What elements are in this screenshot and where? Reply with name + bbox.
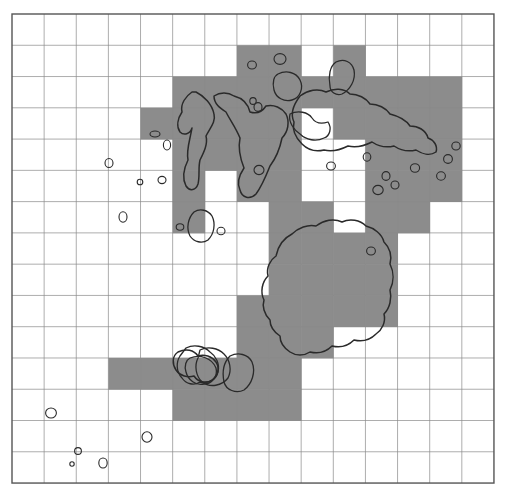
shaded-cell bbox=[333, 77, 366, 109]
shaded-cell bbox=[365, 295, 398, 327]
shaded-cell bbox=[173, 389, 206, 421]
shaded-cell bbox=[173, 77, 206, 109]
shaded-cell bbox=[398, 108, 431, 140]
figure-page bbox=[0, 0, 505, 495]
shaded-cell bbox=[173, 202, 206, 234]
shaded-cell bbox=[237, 327, 270, 359]
shaded-cell bbox=[108, 358, 141, 390]
shaded-cell bbox=[237, 77, 270, 109]
shaded-cell bbox=[333, 295, 366, 327]
shaded-cell bbox=[430, 108, 463, 140]
shaded-cell bbox=[430, 170, 463, 202]
shaded-cell bbox=[205, 139, 238, 171]
shaded-cell bbox=[269, 295, 302, 327]
shaded-cell bbox=[398, 77, 431, 109]
shaded-cell bbox=[269, 202, 302, 234]
shaded-cell bbox=[269, 358, 302, 390]
shaded-cell bbox=[237, 170, 270, 202]
shaded-cell bbox=[269, 389, 302, 421]
shaded-cell bbox=[430, 77, 463, 109]
shaded-cell bbox=[301, 264, 334, 296]
shaded-cell bbox=[333, 233, 366, 265]
shaded-cell bbox=[398, 170, 431, 202]
shaded-cell bbox=[141, 108, 174, 140]
shaded-cell bbox=[205, 389, 238, 421]
shaded-cell bbox=[398, 202, 431, 234]
shaded-cell bbox=[365, 202, 398, 234]
shaded-cell bbox=[301, 233, 334, 265]
shaded-cell bbox=[269, 170, 302, 202]
map-svg-canvas bbox=[0, 0, 505, 495]
shaded-cell bbox=[398, 139, 431, 171]
shaded-cell bbox=[237, 389, 270, 421]
shaded-cell bbox=[301, 202, 334, 234]
shaded-cell bbox=[269, 139, 302, 171]
shaded-cell bbox=[173, 170, 206, 202]
shaded-cell bbox=[333, 108, 366, 140]
shaded-cell bbox=[333, 264, 366, 296]
shaded-cell bbox=[269, 264, 302, 296]
shaded-cell bbox=[237, 139, 270, 171]
shaded-cell bbox=[301, 295, 334, 327]
grid-coverage-map bbox=[0, 0, 505, 495]
shaded-cell bbox=[141, 358, 174, 390]
shaded-cell bbox=[365, 108, 398, 140]
